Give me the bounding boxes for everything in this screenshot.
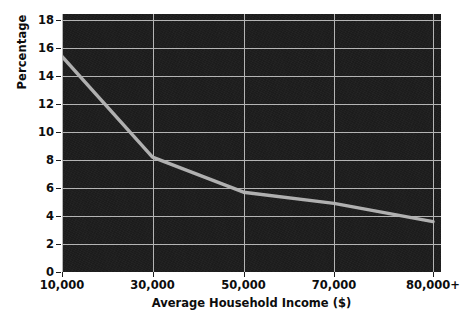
x-axis-tick-label: 80,000+ — [406, 278, 460, 292]
y-axis-tick-mark — [56, 188, 61, 189]
x-axis-tick-mark — [244, 272, 245, 277]
x-axis-tick-label: 50,000 — [221, 278, 265, 292]
y-axis-tick-label: 16 — [30, 42, 54, 54]
gridline-horizontal — [62, 132, 441, 133]
y-axis-tick-label: 4 — [30, 210, 54, 222]
gridline-vertical — [334, 14, 335, 272]
y-axis-tick-label: 12 — [30, 98, 54, 110]
gridline-horizontal — [62, 20, 441, 21]
x-axis-tick-mark — [433, 272, 434, 277]
gridline-horizontal — [62, 216, 441, 217]
y-axis-tick-mark — [56, 76, 61, 77]
y-axis-tick-label: 10 — [30, 126, 54, 138]
x-axis-title: Average Household Income ($) — [62, 296, 441, 310]
gridline-vertical — [153, 14, 154, 272]
plot-area — [62, 14, 441, 272]
x-axis-tick-label: 30,000 — [130, 278, 174, 292]
y-axis-tick-mark — [56, 132, 61, 133]
y-axis-tick-mark — [56, 160, 61, 161]
gridline-horizontal — [62, 244, 441, 245]
y-axis-tick-mark — [56, 244, 61, 245]
gridline-vertical — [433, 14, 434, 272]
y-axis-tick-label: 8 — [30, 154, 54, 166]
y-axis-tick-label: 14 — [30, 70, 54, 82]
x-axis-tick-mark — [334, 272, 335, 277]
x-axis-tick-mark — [62, 272, 63, 277]
y-axis-tick-mark — [56, 20, 61, 21]
y-axis-tick-label: 18 — [30, 14, 54, 26]
x-axis-tick-label: 10,000 — [40, 278, 84, 292]
gridline-vertical — [62, 14, 63, 272]
y-axis-tick-mark — [56, 48, 61, 49]
gridline-horizontal — [62, 48, 441, 49]
y-axis-tick-mark — [56, 272, 61, 273]
y-axis-tick-mark — [56, 216, 61, 217]
gridline-horizontal — [62, 188, 441, 189]
y-axis-tick-mark — [56, 104, 61, 105]
gridline-horizontal — [62, 104, 441, 105]
x-axis-tick-label: 70,000 — [312, 278, 356, 292]
y-axis-tick-label: 6 — [30, 182, 54, 194]
gridline-horizontal — [62, 76, 441, 77]
x-axis-tick-labels: 10,00030,00050,00070,00080,000+ — [0, 278, 468, 294]
series-percentage-line — [62, 56, 433, 221]
gridline-horizontal — [62, 160, 441, 161]
y-axis-title: Percentage — [14, 0, 30, 112]
y-axis-tick-label: 2 — [30, 238, 54, 250]
x-axis-tick-mark — [153, 272, 154, 277]
gridline-vertical — [244, 14, 245, 272]
y-axis-tick-labels: 024681012141618 — [30, 0, 54, 314]
data-series-line — [62, 14, 441, 272]
line-chart-figure: Percentage 024681012141618 10,00030,0005… — [0, 0, 468, 314]
y-axis-tick-label: 0 — [30, 266, 54, 278]
